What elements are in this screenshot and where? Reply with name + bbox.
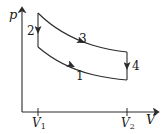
process-label-3: 3 xyxy=(79,33,87,45)
process-label-2: 2 xyxy=(27,25,35,37)
pv-diagram-figure: p V 2 3 1 4 V1 V2 xyxy=(0,0,168,134)
y-axis-label: p xyxy=(9,8,17,21)
v2-base: V xyxy=(121,116,130,130)
v1-base: V xyxy=(32,116,41,130)
v1-subscript: 1 xyxy=(41,122,46,131)
x-tick-label-v2: V2 xyxy=(121,117,135,129)
v2-subscript: 2 xyxy=(130,122,135,131)
x-axis xyxy=(22,108,154,116)
x-tick-label-v1: V1 xyxy=(32,117,46,129)
process-label-4: 4 xyxy=(132,60,140,72)
pv-diagram-canvas xyxy=(0,0,168,134)
process-label-1: 1 xyxy=(76,70,84,82)
x-axis-label: V xyxy=(146,113,155,126)
